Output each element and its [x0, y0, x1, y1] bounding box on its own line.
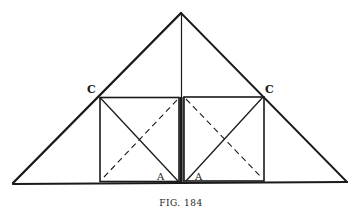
right-square [184, 97, 264, 181]
label-a-left: A [156, 171, 165, 182]
label-a-right: A [194, 171, 203, 182]
left-square [100, 98, 179, 182]
figure-caption: FIG. 184 [159, 198, 203, 208]
fig-184-diagram: C C A A FIG. 184 [0, 0, 356, 218]
label-c-right: C [265, 83, 274, 96]
label-c-left: C [87, 83, 96, 96]
left-square-dashed-diagonal [104, 98, 179, 177]
